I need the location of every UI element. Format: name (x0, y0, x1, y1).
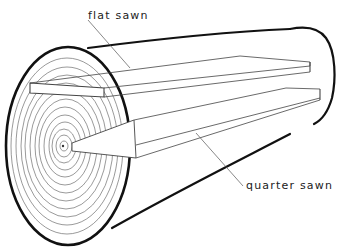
log-top-edge (88, 29, 290, 48)
log-far-end (290, 28, 334, 124)
flat-sawn-label: flat sawn (88, 10, 149, 21)
quarter-sawn-label: quarter sawn (246, 180, 333, 191)
log-diagram (0, 0, 342, 252)
pith (62, 145, 64, 147)
